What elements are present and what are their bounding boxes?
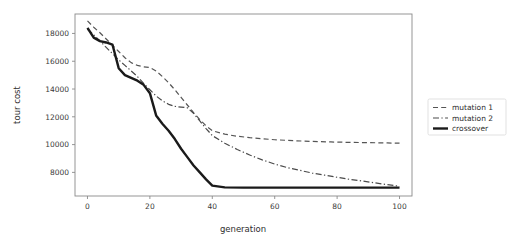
- legend-label-mutation-1: mutation 1: [452, 103, 493, 112]
- y-tick-label: 12000: [45, 113, 69, 122]
- x-tick-label: 80: [332, 202, 342, 211]
- y-axis-label: tour cost: [12, 85, 22, 123]
- x-axis-label: generation: [220, 224, 266, 234]
- y-tick-label: 16000: [45, 57, 69, 66]
- line-chart: 80001000012000140001600018000 0204060801…: [0, 0, 514, 243]
- y-tick-label: 14000: [45, 85, 69, 94]
- x-tick-label: 60: [270, 202, 280, 211]
- chart-figure: 80001000012000140001600018000 0204060801…: [0, 0, 514, 243]
- y-tick-label: 18000: [45, 29, 69, 38]
- legend-label-mutation-2: mutation 2: [452, 114, 493, 123]
- chart-legend: mutation 1mutation 2crossover: [428, 99, 506, 135]
- x-tick-label: 100: [392, 202, 407, 211]
- x-tick-label: 40: [208, 202, 218, 211]
- x-tick-label: 20: [145, 202, 155, 211]
- y-tick-label: 10000: [45, 140, 69, 149]
- y-tick-label: 8000: [50, 168, 69, 177]
- x-tick-label: 0: [85, 202, 90, 211]
- legend-label-crossover: crossover: [452, 124, 489, 133]
